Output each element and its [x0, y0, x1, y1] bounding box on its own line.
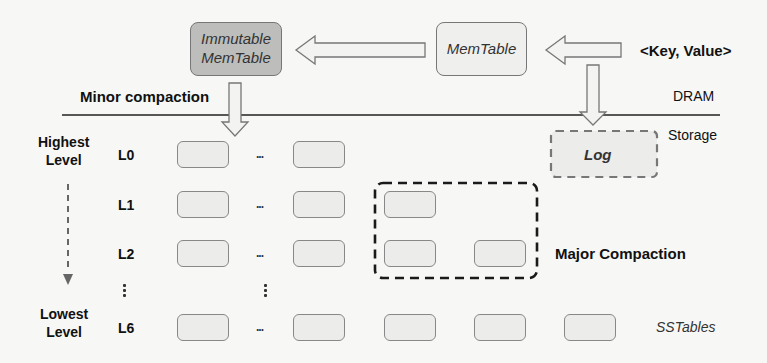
sstable-l6-3	[384, 314, 436, 341]
immutable-memtable-label-line2: MemTable	[201, 49, 271, 68]
level-label-l1: L1	[118, 197, 134, 213]
lowest-label-line2: Level	[40, 323, 88, 341]
level-label-l2: L2	[118, 246, 134, 262]
sstable-l1-2	[293, 191, 345, 218]
sstable-l0-1	[177, 141, 229, 168]
minor-compaction-label: Minor compaction	[80, 88, 209, 105]
sstable-ellipsis-l1: ...	[256, 197, 263, 211]
immutable-memtable-box: Immutable MemTable	[190, 22, 282, 76]
sstable-l2-3	[384, 240, 436, 267]
log-write-arrow-icon	[580, 65, 606, 125]
sstable-ellipsis-l2: ...	[256, 246, 263, 260]
sstable-ellipsis-vertical	[264, 284, 267, 299]
log-label: Log	[584, 146, 612, 163]
flush-arrow-icon	[296, 36, 425, 64]
highest-label-line1: Highest	[38, 133, 89, 151]
level-label-l6: L6	[118, 320, 134, 336]
memtable-label: MemTable	[447, 40, 516, 59]
level-direction-arrow-icon	[63, 184, 73, 285]
memtable-box: MemTable	[436, 22, 527, 76]
minor-compaction-arrow-icon	[222, 83, 248, 136]
sstable-l2-2	[293, 240, 345, 267]
lowest-level-label: Lowest Level	[40, 305, 88, 341]
major-compaction-label: Major Compaction	[555, 245, 686, 262]
highest-level-label: Highest Level	[38, 133, 89, 169]
sstable-l6-1	[177, 314, 229, 341]
input-arrow-icon	[546, 36, 621, 64]
sstable-l6-5	[564, 314, 616, 341]
lowest-label-line1: Lowest	[40, 305, 88, 323]
sstable-l0-2	[293, 141, 345, 168]
sstable-l6-2	[293, 314, 345, 341]
highest-label-line2: Level	[38, 151, 89, 169]
sstables-label: SSTables	[656, 319, 715, 335]
sstable-ellipsis-l6: ...	[256, 320, 263, 334]
sstable-l6-4	[474, 314, 526, 341]
key-value-input-label: <Key, Value>	[640, 42, 731, 59]
storage-label: Storage	[668, 127, 717, 143]
sstable-ellipsis-l0: ...	[256, 147, 263, 161]
level-ellipsis-vertical	[123, 284, 126, 299]
dram-label: DRAM	[673, 88, 714, 104]
sstable-l1-1	[177, 191, 229, 218]
level-label-l0: L0	[118, 147, 134, 163]
sstable-l2-4	[474, 240, 526, 267]
sstable-l1-3	[384, 191, 436, 218]
immutable-memtable-label-line1: Immutable	[201, 30, 271, 49]
sstable-l2-1	[177, 240, 229, 267]
